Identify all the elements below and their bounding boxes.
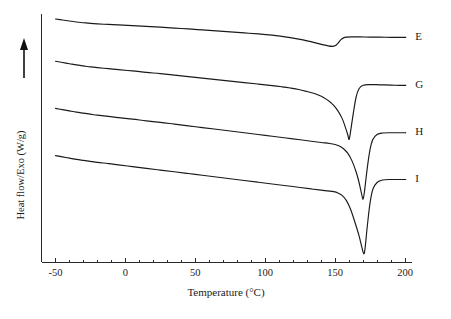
series-label-g: G	[415, 78, 423, 90]
arrow-head-icon	[20, 38, 28, 50]
series-curves-group	[55, 19, 406, 254]
x-axis-tick-labels: -50050100150200	[48, 267, 412, 278]
y-axis-title-group: Heat flow/Exo (W/g)	[15, 38, 28, 220]
x-axis-tick-label: 0	[123, 267, 128, 278]
series-curve-g	[55, 61, 405, 139]
x-axis-tick-label: -50	[48, 267, 62, 278]
series-curve-e	[55, 19, 405, 46]
x-axis-tick-label: 150	[327, 267, 343, 278]
series-curve-h	[55, 108, 405, 199]
series-label-i: I	[415, 172, 419, 184]
series-labels-group: EGHI	[415, 30, 423, 184]
x-axis-tick-label: 200	[397, 267, 413, 278]
x-axis-title: Temperature (°C)	[187, 286, 265, 299]
series-label-h: H	[415, 125, 423, 137]
x-axis-group: -50050100150200	[42, 258, 413, 278]
x-axis-tick-label: 50	[190, 267, 201, 278]
y-axis-title: Heat flow/Exo (W/g)	[15, 130, 27, 220]
series-curve-i	[55, 156, 405, 254]
dsc-thermogram-figure: -50050100150200 Temperature (°C) Heat fl…	[0, 0, 451, 319]
x-axis-tick-label: 100	[257, 267, 273, 278]
chart-canvas: -50050100150200 Temperature (°C) Heat fl…	[0, 0, 451, 319]
x-axis-major-ticks	[55, 258, 405, 263]
series-label-e: E	[415, 30, 422, 42]
exo-direction-arrow	[20, 38, 28, 78]
